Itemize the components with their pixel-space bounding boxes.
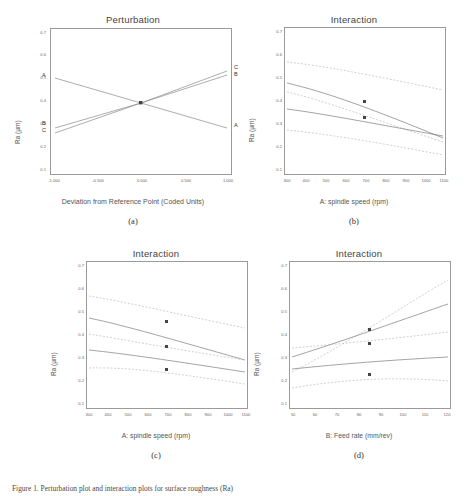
panel-a-xtick-0: -1.000 — [48, 178, 60, 183]
panel-d-ytick-5: 0.6 — [263, 286, 287, 291]
figure-caption: Figure 1. Perturbation plot and interact… — [12, 484, 460, 493]
panel-a-ytick-0: 0.1 — [24, 167, 46, 172]
panel-b-xtick-5: 800 — [383, 178, 390, 183]
panel-b-ytick-5: 0.6 — [258, 52, 282, 57]
panel-d-ylabel: Ra (µm) — [253, 352, 260, 376]
panel-b-curves — [285, 28, 445, 174]
figure-canvas: Perturbation Ra (µm) 0.1 0.2 0.3 0.4 0.5… — [0, 0, 468, 496]
panel-a-title: Perturbation — [28, 14, 238, 25]
panel-d-xtick-3: 80 — [357, 412, 362, 417]
panel-a-label-A-right: A — [234, 122, 238, 128]
panel-d-xtick-6: 110 — [422, 412, 429, 417]
panel-b-xtick-7: 1000 — [421, 178, 430, 183]
panel-a-ytick-3: 0.4 — [24, 98, 46, 103]
panel-interaction-d: Interaction C: Depth of cut (mm) Ra (µm)… — [255, 248, 463, 463]
panel-a-xlabel: Deviation from Reference Point (Coded Un… — [28, 198, 238, 205]
panel-b-xtick-2: 500 — [323, 178, 330, 183]
panel-a-label-B-right: B — [234, 71, 238, 77]
panel-a-label-A-left: A — [42, 72, 46, 78]
panel-d-ytick-2: 0.3 — [263, 355, 287, 360]
panel-interaction-b: Interaction B: Feed rate (mm/rev) Ra (µm… — [250, 14, 458, 229]
panel-a-xtick-3: 0.500 — [181, 178, 191, 183]
panel-a-ytick-5: 0.6 — [24, 52, 46, 57]
panel-a-curves — [51, 29, 231, 174]
panel-c-xtick-6: 900 — [205, 412, 212, 417]
panel-b-xtick-8: 1100 — [440, 178, 449, 183]
panel-d-title: Interaction — [255, 248, 463, 259]
panel-a-xtick-2: 0.000 — [137, 178, 147, 183]
panel-a-ylabel: Ra (µm) — [14, 120, 21, 144]
panel-b-title: Interaction — [250, 14, 458, 25]
panel-c-ytick-5: 0.6 — [60, 286, 84, 291]
panel-b-xtick-3: 600 — [343, 178, 350, 183]
panel-b-xlabel: A: spindle speed (rpm) — [250, 198, 458, 205]
panel-b-axes — [284, 27, 446, 175]
panel-d-xtick-5: 100 — [400, 412, 407, 417]
panel-a-label-C-left: C — [42, 127, 46, 133]
panel-c-xtick-2: 500 — [125, 412, 132, 417]
panel-b-ytick-1: 0.2 — [258, 144, 282, 149]
panel-c-ytick-3: 0.4 — [60, 332, 84, 337]
panel-c-xtick-1: 400 — [105, 412, 112, 417]
panel-b-ytick-6: 0.7 — [258, 29, 282, 34]
panel-b-ytick-3: 0.4 — [258, 98, 282, 103]
panel-c-xtick-3: 600 — [145, 412, 152, 417]
panel-d-xtick-4: 90 — [379, 412, 384, 417]
panel-c-ytick-6: 0.7 — [60, 263, 84, 268]
panel-d-ytick-4: 0.5 — [263, 309, 287, 314]
panel-a-label-C-right: C — [234, 64, 238, 70]
panel-c-xtick-8: 1100 — [242, 412, 251, 417]
panel-d-xtick-2: 70 — [335, 412, 340, 417]
panel-a-sublabel: (a) — [28, 216, 238, 226]
panel-c-ytick-1: 0.2 — [60, 378, 84, 383]
panel-c-xlabel: A: spindle speed (rpm) — [52, 432, 260, 439]
panel-b-ytick-0: 0.1 — [258, 167, 282, 172]
panel-perturbation: Perturbation Ra (µm) 0.1 0.2 0.3 0.4 0.5… — [28, 14, 238, 229]
panel-b-xtick-4: 700 — [363, 178, 370, 183]
panel-b-xtick-1: 400 — [303, 178, 310, 183]
panel-d-xlabel: B: Feed rate (mm/rev) — [255, 432, 463, 439]
panel-b-ytick-4: 0.5 — [258, 75, 282, 80]
panel-d-xtick-0: 50 — [291, 412, 296, 417]
panel-c-ytick-2: 0.3 — [60, 355, 84, 360]
panel-a-xtick-4: 1.000 — [223, 178, 233, 183]
panel-b-ylabel: Ra (µm) — [248, 118, 255, 142]
panel-b-xtick-6: 900 — [403, 178, 410, 183]
panel-c-sublabel: (c) — [52, 450, 260, 460]
panel-c-ytick-0: 0.1 — [60, 401, 84, 406]
panel-b-xtick-0: 300 — [284, 178, 291, 183]
panel-c-xtick-7: 1000 — [223, 412, 232, 417]
panel-interaction-c: Interaction C: Depth of cut (mm) Ra (µm)… — [52, 248, 260, 463]
panel-a-ytick-6: 0.7 — [24, 30, 46, 35]
panel-d-ytick-3: 0.4 — [263, 332, 287, 337]
panel-a-label-B-left: B — [42, 120, 46, 126]
panel-a-axes — [50, 28, 232, 175]
panel-d-axes — [289, 261, 451, 409]
panel-c-xtick-5: 800 — [185, 412, 192, 417]
panel-c-axes — [86, 261, 248, 409]
panel-d-xtick-7: 120 — [444, 412, 451, 417]
panel-d-ytick-6: 0.7 — [263, 263, 287, 268]
panel-c-ylabel: Ra (µm) — [50, 352, 57, 376]
panel-d-curves — [290, 262, 450, 408]
panel-d-sublabel: (d) — [255, 450, 463, 460]
panel-c-ytick-4: 0.5 — [60, 309, 84, 314]
panel-a-ytick-1: 0.2 — [24, 144, 46, 149]
panel-d-ytick-0: 0.1 — [263, 401, 287, 406]
panel-d-xtick-1: 60 — [313, 412, 318, 417]
panel-c-xtick-4: 700 — [165, 412, 172, 417]
panel-c-curves — [87, 262, 247, 408]
panel-b-sublabel: (b) — [250, 216, 458, 226]
panel-b-ytick-2: 0.3 — [258, 121, 282, 126]
panel-c-title: Interaction — [52, 248, 260, 259]
panel-a-xtick-1: -0.500 — [92, 178, 104, 183]
panel-c-xtick-0: 300 — [86, 412, 93, 417]
panel-d-ytick-1: 0.2 — [263, 378, 287, 383]
